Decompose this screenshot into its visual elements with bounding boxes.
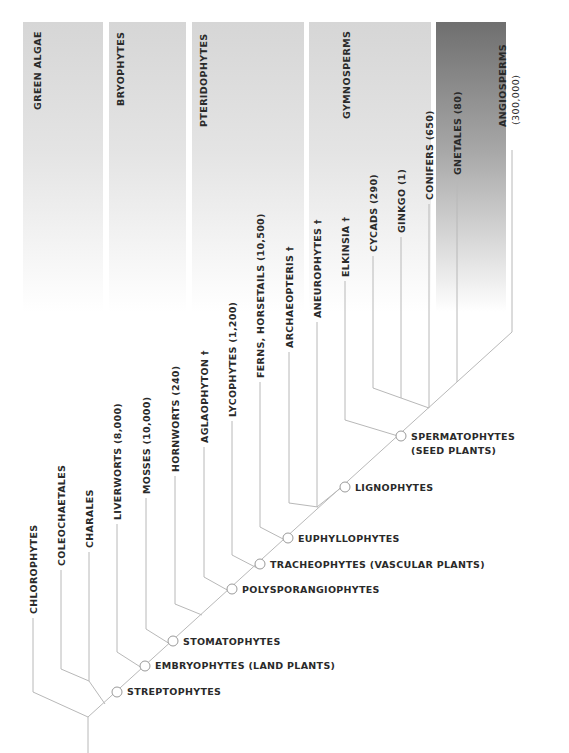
node-lignophytes (340, 482, 350, 492)
leaf-label-conifers: CONIFERS (650) (424, 110, 435, 200)
node-tracheophytes (255, 559, 265, 569)
leaf-label-archaeopteris: ARCHAEOPTERIS † (284, 246, 295, 348)
leaf-label-liverworts: LIVERWORTS (8,000) (112, 403, 123, 520)
node-label-streptophytes: STREPTOPHYTES (127, 686, 221, 698)
leaf-label-lycophytes: LYCOPHYTES (1,200) (227, 302, 238, 417)
phylogenetic-tree (0, 0, 569, 753)
leaf-label-chlorophytes: CHLOROPHYTES (28, 525, 39, 614)
node-label-seed-plants: (SEED PLANTS) (411, 445, 496, 457)
node-label-stomatophytes: STOMATOPHYTES (183, 636, 281, 648)
node-spermatophytes (396, 431, 406, 441)
node-polysporangiophytes (227, 584, 237, 594)
node-label-polysporangiophytes: POLYSPORANGIOPHYTES (242, 584, 380, 596)
node-euphyllophytes (283, 533, 293, 543)
leaf-label-cycads: CYCADS (290) (368, 174, 379, 252)
node-label-tracheophytes: TRACHEOPHYTES (VASCULAR PLANTS) (270, 559, 485, 571)
leaf-label-aglaophyton: AGLAOPHYTON † (199, 350, 210, 443)
node-streptophytes (112, 687, 122, 697)
node-stomatophytes (168, 636, 178, 646)
leaf-label-aneurophytes: ANEUROPHYTES † (312, 219, 323, 318)
leaf-label-charales: CHARALES (84, 489, 95, 548)
leaf-label-ferns-horsetails: FERNS, HORSETAILS (10,500) (255, 213, 266, 378)
leaf-label-ginkgo: GINKGO (1) (396, 169, 407, 233)
leaf-label-elkinsia: ELKINSIA † (340, 217, 351, 277)
leaf-label-gnetales: GNETALES (80) (452, 91, 463, 175)
node-label-lignophytes: LIGNOPHYTES (355, 482, 433, 494)
node-embryophytes (140, 661, 150, 671)
leaf-label-coleochaetales: COLEOCHAETALES (56, 465, 67, 566)
node-label-euphyllophytes: EUPHYLLOPHYTES (298, 533, 400, 545)
node-label-spermatophytes: SPERMATOPHYTES (411, 431, 515, 443)
leaf-label-hornworts: HORNWORTS (240) (170, 366, 181, 472)
node-label-embryophytes: EMBRYOPHYTES (LAND PLANTS) (155, 660, 335, 672)
leaf-label-mosses: MOSSES (10,000) (141, 397, 152, 494)
